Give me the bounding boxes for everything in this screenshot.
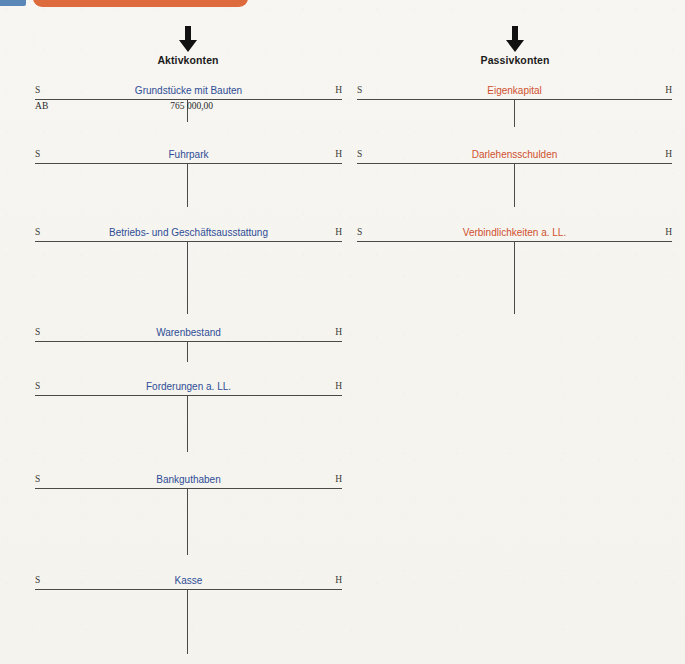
t-account-header: S Betriebs- und Geschäftsausstattung H	[35, 226, 342, 241]
t-account-stem	[187, 489, 188, 555]
t-account-stem	[187, 396, 188, 452]
t-account-stem	[187, 590, 188, 654]
t-account-stem	[514, 242, 515, 314]
t-account-stem	[514, 164, 515, 207]
t-account-eigenkapital[interactable]: S Eigenkapital H	[357, 84, 672, 100]
credit-marker: H	[665, 226, 672, 239]
credit-marker: H	[335, 380, 342, 393]
t-account-title: Darlehensschulden	[357, 148, 672, 161]
t-account-rule	[35, 241, 342, 242]
t-account-stem	[187, 164, 188, 207]
t-account-title: Bankguthaben	[35, 473, 342, 486]
t-account-kasse[interactable]: S Kasse H	[35, 574, 342, 590]
t-account-title: Kasse	[35, 574, 342, 587]
arrow-down-icon	[177, 26, 199, 52]
t-account-stem	[187, 342, 188, 362]
t-account-rule	[35, 589, 342, 590]
t-account-verbindlichkeiten-a-ll[interactable]: S Verbindlichkeiten a. LL. H	[357, 226, 672, 242]
t-account-rule	[35, 395, 342, 396]
t-account-rule	[35, 488, 342, 489]
t-account-stem	[187, 242, 188, 314]
t-account-title: Forderungen a. LL.	[35, 380, 342, 393]
credit-marker: H	[335, 148, 342, 161]
entry-amount: 765 000,00	[113, 101, 213, 111]
t-account-title: Fuhrpark	[35, 148, 342, 161]
column-heading-label: Passivkonten	[435, 54, 595, 66]
t-account-warenbestand[interactable]: S Warenbestand H	[35, 326, 342, 342]
t-account-rule	[35, 99, 342, 100]
column-heading-aktivkonten: Aktivkonten	[108, 26, 268, 66]
t-account-entry-row[interactable]: AB 765 000,00	[35, 101, 342, 115]
t-account-grundstuecke-mit-bauten[interactable]: S Grundstücke mit Bauten H AB 765 000,00	[35, 84, 342, 100]
entry-label: AB	[35, 101, 49, 111]
t-account-header: S Kasse H	[35, 574, 342, 589]
credit-marker: H	[335, 84, 342, 97]
credit-marker: H	[335, 574, 342, 587]
t-account-title: Verbindlichkeiten a. LL.	[357, 226, 672, 239]
page-corner-badge	[0, 0, 26, 6]
t-account-header: S Forderungen a. LL. H	[35, 380, 342, 395]
column-heading-label: Aktivkonten	[108, 54, 268, 66]
worksheet-page: Aktivkonten Passivkonten S Grundstücke m…	[0, 0, 685, 664]
t-account-rule	[35, 341, 342, 342]
credit-marker: H	[335, 226, 342, 239]
credit-marker: H	[665, 84, 672, 97]
t-account-header: S Fuhrpark H	[35, 148, 342, 163]
t-account-header: S Eigenkapital H	[357, 84, 672, 99]
t-account-title: Warenbestand	[35, 326, 342, 339]
credit-marker: H	[665, 148, 672, 161]
page-header-bar	[33, 0, 248, 7]
t-account-title: Betriebs- und Geschäftsausstattung	[35, 226, 342, 239]
column-heading-passivkonten: Passivkonten	[435, 26, 595, 66]
t-account-fuhrpark[interactable]: S Fuhrpark H	[35, 148, 342, 164]
arrow-down-icon	[504, 26, 526, 52]
t-account-header: S Warenbestand H	[35, 326, 342, 341]
credit-marker: H	[335, 326, 342, 339]
t-account-title: Eigenkapital	[357, 84, 672, 97]
t-account-header: S Darlehensschulden H	[357, 148, 672, 163]
t-account-bankguthaben[interactable]: S Bankguthaben H	[35, 473, 342, 489]
t-account-rule	[35, 163, 342, 164]
t-account-header: S Verbindlichkeiten a. LL. H	[357, 226, 672, 241]
t-account-header: S Bankguthaben H	[35, 473, 342, 488]
t-account-darlehensschulden[interactable]: S Darlehensschulden H	[357, 148, 672, 164]
t-account-header: S Grundstücke mit Bauten H	[35, 84, 342, 99]
t-account-forderungen-a-ll[interactable]: S Forderungen a. LL. H	[35, 380, 342, 396]
credit-marker: H	[335, 473, 342, 486]
t-account-title: Grundstücke mit Bauten	[35, 84, 342, 97]
t-account-betriebs-und-geschaeftsausstattung[interactable]: S Betriebs- und Geschäftsausstattung H	[35, 226, 342, 242]
t-account-stem	[514, 100, 515, 127]
